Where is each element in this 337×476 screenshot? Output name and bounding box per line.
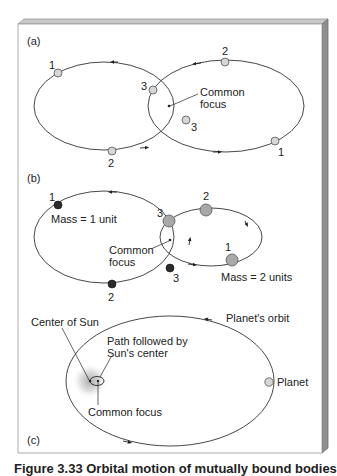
planet-body: [265, 378, 273, 386]
panel-a-left-body-1: [54, 69, 62, 77]
panel-b-right-pos-2: 2: [203, 190, 209, 202]
panel-b-right-pos-3: 3: [157, 207, 163, 219]
panel-b-left-body-2: [108, 280, 116, 288]
common-focus-dot: [97, 380, 99, 382]
panel-b-left-mass-label: Mass = 1 unit: [51, 213, 117, 225]
figure-caption: Figure 3.33 Orbital motion of mutually b…: [14, 461, 337, 476]
common-focus-label: Common focus: [88, 406, 162, 418]
center-of-sun-label: Center of Sun: [31, 316, 99, 328]
panel-b-common-focus-dot: [169, 239, 172, 242]
panel-b-right-body-2: [200, 204, 212, 216]
planet-orbit-label: Planet's orbit: [226, 312, 289, 324]
panel-a-label: (a): [27, 35, 40, 47]
panel-b-left-pos-2: 2: [108, 291, 114, 303]
panel-b-right-mass-label: Mass = 2 units: [221, 271, 293, 283]
panel-a-common-focus-dot: [168, 105, 171, 108]
panel-a-right-pos-1: 1: [278, 146, 284, 158]
panel-b-right-body-1: [226, 254, 238, 266]
panel-b-right-body-3: [163, 215, 175, 227]
frame-top-bevel: [18, 19, 328, 24]
panel-b-focus-label-2: focus: [109, 256, 136, 268]
panel-b-focus-label-1: Common: [109, 244, 154, 256]
panel-b-left-pos-3: 3: [173, 272, 179, 284]
panel-a-left-pos-1: 1: [49, 59, 55, 71]
panel-a-left-pos-3: 3: [191, 121, 197, 133]
panel-b-right-pos-1: 1: [225, 241, 231, 253]
panel-b-left-pos-1: 1: [49, 191, 55, 203]
panel-b-label: (b): [27, 172, 40, 184]
sun-path-label-2: Sun's center: [107, 347, 168, 359]
panel-a-focus-label-1: Common: [200, 86, 245, 98]
panel-a-right-body-3: [149, 86, 157, 94]
panel-a-right-body-2: [221, 58, 229, 66]
sun-path-label-1: Path followed by: [107, 335, 188, 347]
panel-a-left-body-3: [182, 116, 190, 124]
center-of-sun-dot: [89, 380, 91, 382]
panel-a-arrow-icon: [140, 148, 147, 149]
frame-face: [18, 24, 322, 453]
panel-a-right-body-1: [271, 137, 279, 145]
planet-label: Planet: [277, 376, 308, 388]
panel-b-left-body-3: [166, 264, 174, 272]
panel-a-right-pos-3: 3: [141, 80, 147, 92]
panel-a-right-pos-2: 2: [222, 45, 228, 57]
panel-b-left-body-1: [54, 201, 62, 209]
panel-a-left-body-2: [108, 147, 116, 155]
panel-a-focus-label-2: focus: [200, 98, 227, 110]
frame-side-bevel: [322, 19, 328, 453]
panel-a-left-pos-2: 2: [108, 157, 114, 169]
panel-c-label: (c): [27, 434, 40, 446]
